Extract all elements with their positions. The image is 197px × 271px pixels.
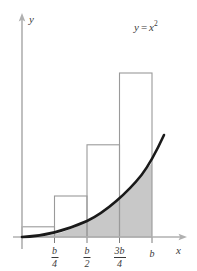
fraction-denominator: 2: [84, 259, 91, 270]
curve-equation-equals: =: [141, 21, 147, 33]
figure-canvas: [0, 0, 197, 271]
x-tick-label-three-b-over-4: 3b 4: [114, 246, 126, 269]
x-tick-label-b-over-4: b 4: [51, 246, 58, 269]
parabola-rectangles-figure: y x y=x2 b 4 b 2 3b 4 b: [0, 0, 197, 271]
curve-equation-exponent: 2: [154, 19, 158, 28]
fraction-numerator: b: [84, 246, 91, 257]
fraction-denominator: 4: [51, 259, 58, 270]
x-tick-label-b-over-2: b 2: [84, 246, 91, 269]
fraction-numerator: b: [51, 246, 58, 257]
curve-equation-label: y=x2: [134, 22, 158, 33]
fraction-numerator: 3b: [114, 246, 126, 257]
y-axis-label: y: [29, 14, 34, 25]
x-tick-label-b: b: [150, 248, 155, 259]
curve-equation-lhs: y: [134, 21, 139, 33]
fraction-denominator: 4: [114, 259, 126, 270]
x-axis-label: x: [176, 245, 181, 256]
